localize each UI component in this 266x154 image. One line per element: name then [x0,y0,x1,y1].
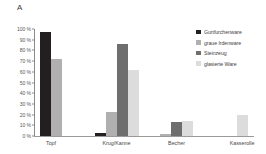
y-axis-tick-mark [32,136,35,137]
panel-label: A [17,3,23,12]
legend-swatch-icon [196,40,201,45]
y-axis-tick-mark [32,93,35,94]
bar [95,133,106,136]
legend-swatch-icon [196,61,201,66]
bar-group [149,29,193,136]
y-axis-tick-mark [32,50,35,51]
legend-item-label: glasierte Ware [204,61,237,67]
y-axis-tick-mark [32,114,35,115]
x-axis-label: Kasserolle [230,140,255,146]
bar [237,115,248,136]
bar [128,70,139,136]
legend-swatch-icon [196,30,201,35]
x-axis-line [34,136,254,137]
y-axis-tick-mark [32,71,35,72]
x-axis-label: Topf [46,140,56,146]
chart-legend: Gurtfurchenwaregraue IrdenwareSteinzeugg… [196,27,266,69]
bar [117,44,128,136]
bar [51,59,62,136]
y-axis-tick-mark [32,125,35,126]
legend-item: Gurtfurchenware [196,27,266,37]
y-axis-tick-mark [32,61,35,62]
legend-swatch-icon [196,51,201,56]
y-axis-tick-mark [32,29,35,30]
x-axis-label: Becher [168,140,185,146]
legend-item-label: graue Irdenware [204,40,241,46]
legend-item: Steinzeug [196,48,266,58]
y-axis-tick-mark [32,82,35,83]
y-axis-tick-mark [32,39,35,40]
y-axis-tick-mark [32,103,35,104]
bar-group [95,29,139,136]
bar-group [40,29,84,136]
bar [106,112,117,136]
bar-chart-panel: A 0 %10 %20 %30 %40 %50 %60 %70 %80 %90 … [0,0,266,154]
legend-item: glasierte Ware [196,59,266,69]
bar [171,122,182,136]
x-axis-label: Krug/Kanne [103,140,131,146]
bar [182,121,193,136]
legend-item: graue Irdenware [196,38,266,48]
bar [40,32,51,136]
legend-item-label: Gurtfurchenware [204,29,242,35]
legend-item-label: Steinzeug [204,50,227,56]
bar [160,134,171,136]
